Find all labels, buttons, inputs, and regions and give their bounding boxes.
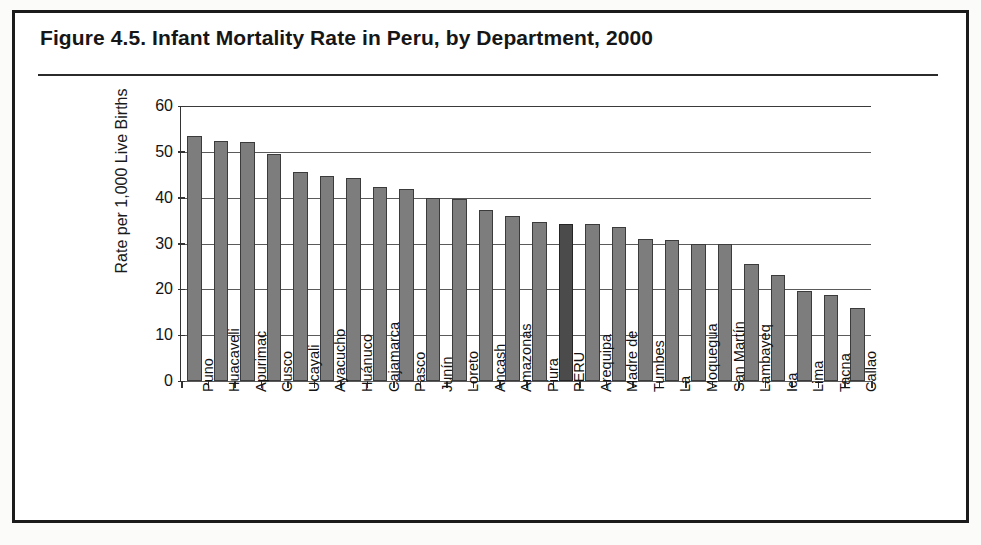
x-tick-label: Junín <box>439 357 455 392</box>
x-tick-label: Lima <box>810 361 826 392</box>
x-tick-mark <box>181 381 183 388</box>
bar-chart: Rate per 1,000 Live Births 0102030405060… <box>0 0 981 545</box>
x-tick-label: Pasco <box>412 352 428 392</box>
x-tick-label: Ucayali <box>306 344 322 392</box>
x-tick-label: Tacna <box>837 353 853 392</box>
x-tick-label: Apurimac <box>253 331 269 392</box>
x-tick-label: Puno <box>200 358 216 392</box>
y-tick-label: 20 <box>127 280 173 298</box>
y-tick-label: 30 <box>127 235 173 253</box>
x-tick-label: Ica <box>784 373 800 392</box>
x-tick-label: Tumbes <box>651 340 667 392</box>
plot-area: 0102030405060 PunoHuacaveliApurimacCusco… <box>180 106 871 382</box>
x-tick-label: Callao <box>863 351 879 392</box>
bar <box>771 275 786 381</box>
x-tick-label: Ancash <box>492 344 508 392</box>
bar <box>187 136 202 381</box>
x-tick-label: Loreto <box>465 351 481 392</box>
x-tick-label: Cusco <box>279 351 295 392</box>
x-tick-label: Cajamarca <box>386 322 402 392</box>
x-tick-label: Madre de <box>624 331 640 392</box>
y-tick-label: 0 <box>127 372 173 390</box>
x-tick-label: Moquegua <box>704 323 720 392</box>
x-tick-label: Huacaveli <box>226 328 242 392</box>
y-axis-title: Rate per 1,000 Live Births <box>113 51 131 311</box>
x-tick-label: Ayacucho <box>332 329 348 392</box>
x-tick-label: La <box>677 376 693 392</box>
x-tick-label: San Martín <box>731 321 747 392</box>
x-tick-label: Huánuco <box>359 334 375 392</box>
y-tick-label: 60 <box>127 97 173 115</box>
x-tick-label: Piura <box>545 358 561 392</box>
y-tick-label: 50 <box>127 143 173 161</box>
y-tick-label: 40 <box>127 189 173 207</box>
x-tick-label: Lambayeq <box>757 324 773 392</box>
figure-page: Figure 4.5. Infant Mortality Rate in Per… <box>0 0 981 545</box>
x-tick-label: PERU <box>571 352 587 392</box>
x-tick-label: Amazonas <box>518 323 534 392</box>
bar <box>426 198 441 381</box>
y-tick-label: 10 <box>127 326 173 344</box>
x-tick-label: Arequipa <box>598 334 614 392</box>
